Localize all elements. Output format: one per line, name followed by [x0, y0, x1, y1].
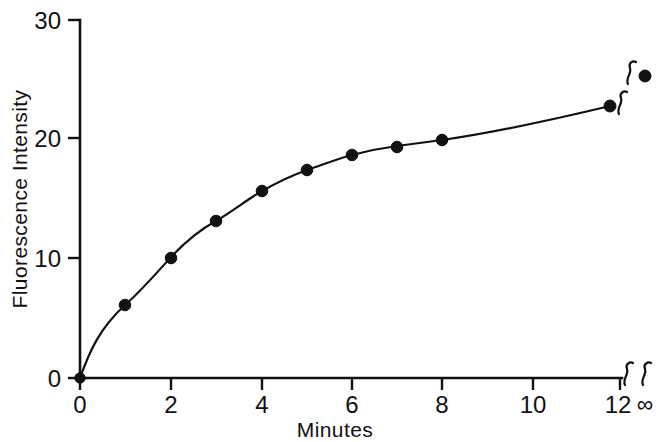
data-point	[436, 134, 448, 146]
x-tick-label-2: 2	[164, 391, 177, 418]
x-tick-label-12: 12	[605, 391, 632, 418]
y-axis-title: Fluorescence Intensity	[8, 89, 31, 308]
data-point-infinity	[639, 70, 651, 82]
data-point	[75, 373, 85, 383]
y-tick-label-20: 20	[34, 125, 61, 152]
x-axis-title: Minutes	[297, 418, 373, 441]
x-tick-label-8: 8	[435, 391, 448, 418]
data-point	[391, 141, 403, 153]
data-point	[119, 299, 131, 311]
data-point	[301, 164, 313, 176]
x-tick-label-0: 0	[73, 391, 86, 418]
data-point	[604, 100, 616, 112]
data-point	[210, 215, 222, 227]
data-point	[165, 252, 177, 264]
x-tick-label-4: 4	[255, 391, 268, 418]
data-point	[346, 149, 358, 161]
x-tick-label-infinity: ∞	[637, 391, 653, 417]
chart-background	[0, 0, 659, 442]
data-point	[256, 185, 268, 197]
y-tick-label-0: 0	[48, 365, 61, 392]
x-tick-label-6: 6	[345, 391, 358, 418]
y-tick-label-10: 10	[34, 245, 61, 272]
x-tick-label-10: 10	[520, 391, 547, 418]
fluorescence-kinetics-chart: 30 20 10 0 Fluorescence Intensity 0 2 4 …	[0, 0, 659, 442]
y-tick-label-30: 30	[34, 7, 61, 34]
